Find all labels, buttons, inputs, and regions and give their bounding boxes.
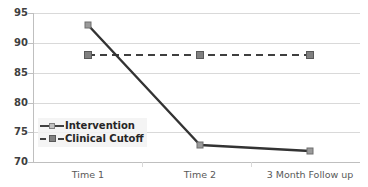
legend-item-clinical-cutoff: Clinical Cutoff xyxy=(40,132,144,145)
datapoint-intervention-time-2 xyxy=(197,142,203,148)
chart-legend: Intervention Clinical Cutoff xyxy=(38,118,147,147)
series-layer xyxy=(0,0,368,187)
datapoint-intervention-time-1 xyxy=(85,22,91,28)
datapoint-intervention-3-month xyxy=(307,148,313,154)
legend-key-solid-line-icon xyxy=(40,120,64,131)
datapoint-cutoff-time-1 xyxy=(85,52,92,59)
datapoint-cutoff-3-month xyxy=(307,52,314,59)
legend-label-intervention: Intervention xyxy=(65,120,135,132)
legend-item-intervention: Intervention xyxy=(40,119,144,132)
line-chart: 95 90 85 80 75 70 Time 1 Time 2 3 Month … xyxy=(0,0,368,187)
legend-key-dashed-line-icon xyxy=(40,133,64,144)
datapoint-cutoff-time-2 xyxy=(197,52,204,59)
legend-label-clinical-cutoff: Clinical Cutoff xyxy=(65,133,144,145)
